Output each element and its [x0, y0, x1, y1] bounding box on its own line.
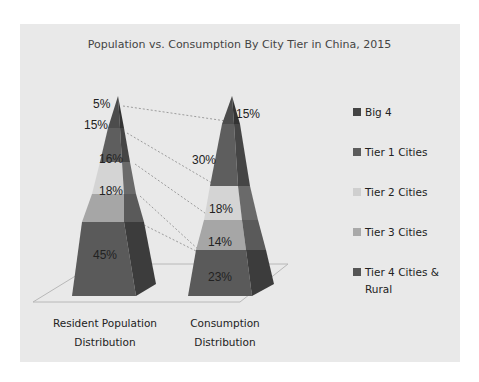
legend: Big 4 Tier 1 Cities Tier 2 Cities Tier 3… — [353, 104, 439, 304]
label-pop-big4: 5% — [93, 97, 111, 111]
legend-item-tier1: Tier 1 Cities — [353, 144, 439, 184]
legend-label: Tier 3 Cities — [365, 224, 427, 241]
label-pop-tier3: 18% — [99, 184, 123, 198]
legend-item-tier3: Tier 3 Cities — [353, 224, 439, 264]
legend-swatch — [353, 268, 361, 276]
legend-label-line2: Rural — [365, 283, 392, 295]
category-line2: Distribution — [30, 333, 180, 352]
legend-item-tier4: Tier 4 Cities &Rural — [353, 264, 439, 304]
label-con-tier1: 30% — [192, 153, 216, 167]
label-pop-tier2: 16% — [99, 152, 123, 166]
legend-label: Big 4 — [365, 104, 392, 121]
category-label-consumption: Consumption Distribution — [165, 314, 285, 352]
category-line2: Distribution — [165, 333, 285, 352]
legend-swatch — [353, 148, 361, 156]
label-con-tier3: 14% — [208, 235, 232, 249]
pyramid-consumption — [188, 96, 274, 296]
legend-label: Tier 1 Cities — [365, 144, 427, 161]
category-label-population: Resident Population Distribution — [30, 314, 180, 352]
label-pop-tier4: 45% — [93, 248, 117, 262]
category-line1: Resident Population — [30, 314, 180, 333]
legend-swatch — [353, 228, 361, 236]
legend-label: Tier 2 Cities — [365, 184, 427, 201]
legend-item-tier2: Tier 2 Cities — [353, 184, 439, 224]
legend-item-big4: Big 4 — [353, 104, 439, 144]
label-con-big4: 15% — [236, 107, 260, 121]
legend-label-line1: Tier 4 Cities & — [365, 266, 439, 278]
label-con-tier4: 23% — [208, 270, 232, 284]
label-con-tier2: 18% — [209, 202, 233, 216]
legend-label: Tier 4 Cities &Rural — [365, 264, 439, 298]
category-line1: Consumption — [165, 314, 285, 333]
legend-swatch — [353, 108, 361, 116]
label-pop-tier1: 15% — [84, 118, 108, 132]
legend-swatch — [353, 188, 361, 196]
